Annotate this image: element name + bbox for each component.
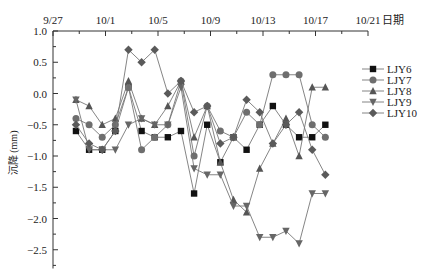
- x-tick-label: 10/13: [250, 14, 276, 26]
- series-line: [76, 75, 325, 156]
- data-point-marker: [322, 134, 329, 141]
- y-tick-label: −0.5: [27, 119, 47, 131]
- series-ljy9: [72, 84, 329, 247]
- x-tick-label: 10/17: [303, 14, 329, 26]
- data-point-marker: [269, 71, 276, 78]
- data-point-marker: [217, 128, 224, 135]
- settlement-chart: 9/2710/110/510/910/1310/1710/21日期1.00.50…: [0, 0, 428, 280]
- series-ljy6: [73, 84, 329, 197]
- legend-marker: [370, 77, 377, 84]
- y-tick-label: −2.5: [27, 244, 47, 256]
- data-point-marker: [85, 102, 92, 109]
- data-point-marker: [190, 165, 197, 172]
- data-point-marker: [191, 190, 197, 196]
- data-point-marker: [295, 152, 302, 159]
- legend-label: LJY10: [387, 107, 417, 119]
- data-point-marker: [164, 102, 171, 109]
- data-point-marker: [282, 71, 289, 78]
- series-line: [76, 87, 325, 243]
- y-tick-label: 0.5: [33, 56, 47, 68]
- data-point-marker: [151, 134, 158, 141]
- data-point-marker: [204, 122, 210, 128]
- series-group: [72, 46, 330, 248]
- data-point-marker: [72, 121, 80, 129]
- data-point-marker: [296, 134, 302, 140]
- data-point-marker: [138, 128, 144, 134]
- data-point-marker: [309, 121, 316, 128]
- series-line: [76, 87, 325, 193]
- data-point-marker: [243, 109, 250, 116]
- data-point-marker: [322, 122, 328, 128]
- axes: 9/2710/110/510/910/1310/1710/21日期1.00.50…: [7, 14, 404, 269]
- y-tick-label: −2.0: [27, 213, 47, 225]
- x-axis-label: 日期: [382, 14, 404, 26]
- y-tick-label: 1.0: [33, 25, 47, 37]
- legend: LJY6LJY7LJY8LJY9LJY10: [362, 63, 417, 119]
- y-tick-label: −1.0: [27, 150, 47, 162]
- y-tick-label: −1.5: [27, 181, 47, 193]
- data-point-marker: [190, 108, 198, 116]
- series-ljy8: [72, 77, 329, 215]
- series-line: [76, 50, 325, 175]
- data-point-marker: [256, 121, 263, 128]
- data-point-marker: [86, 121, 93, 128]
- data-point-marker: [295, 240, 302, 247]
- y-axis-label: 沉降 (mm): [7, 131, 20, 176]
- data-point-marker: [85, 139, 93, 147]
- series-ljy7: [72, 71, 328, 159]
- x-tick-label: 10/9: [201, 14, 221, 26]
- data-point-marker: [309, 134, 315, 140]
- x-tick-label: 10/5: [148, 14, 168, 26]
- chart-canvas: 9/2710/110/510/910/1310/1710/21日期1.00.50…: [0, 0, 428, 280]
- data-point-marker: [125, 77, 132, 84]
- data-point-marker: [308, 146, 316, 154]
- data-point-marker: [99, 134, 106, 141]
- data-point-marker: [321, 171, 329, 179]
- data-point-marker: [270, 103, 276, 109]
- data-point-marker: [256, 165, 263, 172]
- legend-marker: [370, 66, 376, 72]
- data-point-marker: [178, 128, 184, 134]
- data-point-marker: [216, 139, 224, 147]
- data-point-marker: [125, 122, 132, 129]
- legend-item-ljy10: LJY10: [362, 107, 417, 119]
- data-point-marker: [243, 147, 249, 153]
- data-point-marker: [296, 71, 303, 78]
- x-tick-label: 10/21: [355, 14, 380, 26]
- legend-marker: [369, 109, 377, 117]
- data-point-marker: [190, 133, 197, 140]
- data-point-marker: [165, 134, 171, 140]
- x-tick-label: 10/1: [96, 14, 116, 26]
- data-point-marker: [138, 146, 145, 153]
- y-tick-label: 0.0: [33, 88, 47, 100]
